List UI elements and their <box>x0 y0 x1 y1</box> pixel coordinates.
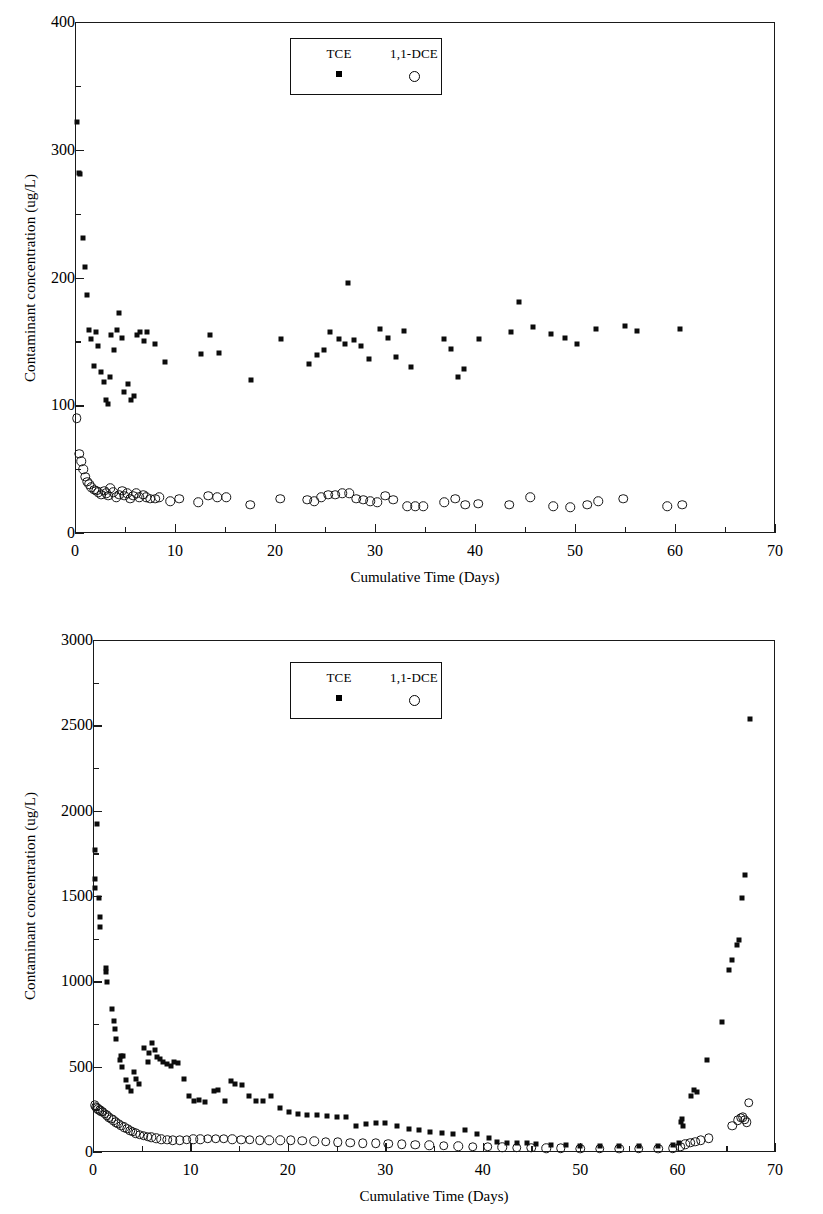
y-minor-tick-mark <box>93 768 99 769</box>
data-point-dce <box>154 492 164 502</box>
y-tick-label: 0 <box>0 1143 100 1161</box>
data-point-dce <box>411 1140 421 1150</box>
x-tick-label: 40 <box>475 1161 491 1179</box>
data-point-dce <box>193 498 203 508</box>
x-minor-tick-mark <box>725 527 726 533</box>
y-minor-tick-mark <box>93 683 99 684</box>
data-point-dce <box>483 1142 493 1152</box>
data-point-tce <box>81 235 86 240</box>
data-point-dce <box>473 499 483 509</box>
data-point-dce <box>255 1135 265 1145</box>
data-point-tce <box>623 324 628 329</box>
data-point-tce <box>246 1093 251 1098</box>
data-point-tce <box>97 915 102 920</box>
x-tick-mark <box>575 524 576 533</box>
legend-top: TCE1,1-DCE <box>290 38 442 95</box>
data-point-tce <box>153 341 158 346</box>
x-tick-label: 50 <box>567 542 583 560</box>
data-point-dce <box>593 496 603 506</box>
x-axis-label-bottom: Cumulative Time (Days) <box>93 1188 775 1205</box>
legend-square-marker-icon <box>336 695 342 701</box>
x-minor-tick-mark <box>325 527 326 533</box>
legend-entry: TCE <box>309 39 369 94</box>
y-tick-mark <box>93 640 102 641</box>
y-tick-label: 2000 <box>0 802 100 820</box>
x-tick-mark <box>190 1143 191 1152</box>
y-tick-mark <box>75 150 84 151</box>
data-point-tce <box>735 943 740 948</box>
data-point-tce <box>305 1113 310 1118</box>
data-point-tce <box>104 980 109 985</box>
data-point-tce <box>509 330 514 335</box>
data-point-tce <box>109 332 114 337</box>
data-point-tce <box>260 1098 265 1103</box>
x-minor-tick-mark <box>525 527 526 533</box>
data-point-dce <box>497 1142 507 1152</box>
data-point-dce <box>275 1136 285 1146</box>
y-minor-tick-mark <box>75 341 81 342</box>
data-point-tce <box>337 336 342 341</box>
x-tick-mark <box>675 524 676 533</box>
data-point-dce <box>614 1144 624 1154</box>
data-point-tce <box>363 1121 368 1126</box>
data-point-tce <box>409 364 414 369</box>
data-point-tce <box>742 872 747 877</box>
x-tick-mark <box>175 524 176 533</box>
data-point-tce <box>315 1113 320 1118</box>
x-tick-mark <box>475 524 476 533</box>
legend-square-marker-icon <box>336 71 342 77</box>
data-point-tce <box>92 886 97 891</box>
data-point-tce <box>83 265 88 270</box>
data-point-tce <box>681 1124 686 1129</box>
data-point-tce <box>197 1097 202 1102</box>
data-point-dce <box>556 1143 566 1153</box>
data-point-dce <box>634 1144 644 1154</box>
x-tick-label: 70 <box>767 542 783 560</box>
data-point-dce <box>309 1137 319 1147</box>
y-tick-label: 200 <box>0 269 82 287</box>
data-point-tce <box>343 341 348 346</box>
data-point-tce <box>442 336 447 341</box>
data-point-tce <box>87 327 92 332</box>
data-point-tce <box>463 1127 468 1132</box>
y-tick-mark <box>93 1152 102 1153</box>
data-point-tce <box>138 330 143 335</box>
x-tick-label: 40 <box>467 542 483 560</box>
x-tick-label: 0 <box>89 1161 97 1179</box>
data-point-dce <box>439 1141 449 1151</box>
data-point-dce <box>454 1141 464 1151</box>
data-point-tce <box>92 363 97 368</box>
data-point-tce <box>114 1037 119 1042</box>
data-point-dce <box>221 492 231 502</box>
data-point-tce <box>367 357 372 362</box>
data-point-tce <box>89 336 94 341</box>
data-point-tce <box>346 280 351 285</box>
data-point-tce <box>451 1132 456 1137</box>
data-point-tce <box>136 1081 141 1086</box>
data-point-tce <box>131 1069 136 1074</box>
data-point-tce <box>112 348 117 353</box>
y-tick-mark <box>93 725 102 726</box>
data-point-tce <box>394 354 399 359</box>
data-point-dce <box>565 503 575 513</box>
data-point-tce <box>352 338 357 343</box>
data-point-tce <box>240 1083 245 1088</box>
data-point-tce <box>109 1007 114 1012</box>
data-point-dce <box>595 1144 605 1154</box>
legend-circle-marker-icon <box>409 695 420 706</box>
data-point-dce <box>582 500 592 510</box>
data-point-dce <box>72 413 82 423</box>
data-point-tce <box>378 326 383 331</box>
data-point-tce <box>253 1098 258 1103</box>
y-tick-mark <box>75 533 84 534</box>
x-tick-label: 60 <box>670 1161 686 1179</box>
data-point-dce <box>174 494 184 504</box>
data-point-tce <box>93 876 98 881</box>
data-point-tce <box>373 1120 378 1125</box>
data-point-tce <box>531 325 536 330</box>
data-point-tce <box>97 924 102 929</box>
data-point-tce <box>121 1054 126 1059</box>
data-point-tce <box>74 119 79 124</box>
data-point-dce <box>345 1138 355 1148</box>
data-point-tce <box>295 1111 300 1116</box>
